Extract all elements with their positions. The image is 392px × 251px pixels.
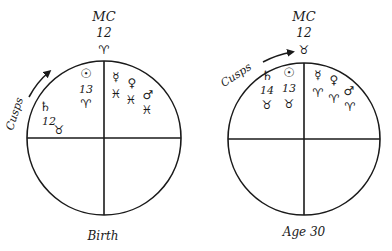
planet-venus: ♀ ♓	[126, 76, 137, 107]
aries-icon: ♈	[329, 92, 340, 106]
mc-degree: 12	[96, 26, 111, 40]
mc-degree: 12	[296, 26, 311, 40]
planet-mercury: ☿ ♈	[313, 68, 324, 100]
planet-mars: ♂ ♓	[142, 88, 154, 117]
planet-saturn: ♄ 12 ♉	[39, 99, 64, 137]
aries-icon: ♈	[81, 97, 92, 111]
pisces-icon: ♓	[111, 87, 122, 101]
cusps-arrow-icon	[263, 52, 292, 62]
aries-icon: ♈	[99, 43, 110, 57]
mars-icon: ♂	[143, 88, 154, 102]
sun-icon: ☉	[80, 66, 92, 81]
cusps-label: Cusps	[3, 95, 26, 132]
cusps-label: Cusps	[218, 60, 254, 90]
taurus-icon: ♉	[284, 97, 295, 111]
planet-saturn: ♄ 14 ♉	[260, 68, 274, 112]
chart-caption: Age 30	[282, 225, 326, 239]
venus-icon: ♀	[330, 73, 339, 87]
planet-sun: ☉ 13 ♈	[79, 66, 93, 111]
saturn-icon: ♄	[39, 99, 51, 114]
astrology-diagram: MC 12 ♈ Cusps ☉ 13 ♈ ♄ 12 ♉ ☿ ♓ ♀ ♓ ♂	[0, 0, 392, 251]
sun-degree: 13	[282, 82, 296, 95]
pisces-icon: ♓	[142, 103, 153, 117]
venus-icon: ♀	[128, 76, 137, 90]
taurus-icon: ♉	[54, 123, 65, 137]
chart-birth: MC 12 ♈ Cusps ☉ 13 ♈ ♄ 12 ♉ ☿ ♓ ♀ ♓ ♂	[3, 9, 181, 243]
pisces-icon: ♓	[126, 93, 137, 107]
sun-icon: ☉	[283, 65, 295, 80]
aries-icon: ♈	[313, 86, 324, 100]
taurus-icon: ♉	[299, 43, 310, 57]
planet-venus: ♀ ♈	[329, 73, 340, 106]
planet-mars: ♂ ♈	[344, 84, 356, 114]
planet-sun: ☉ 13 ♉	[282, 65, 296, 111]
chart-age30: MC 12 ♉ Cusps ♄ 14 ♉ ☉ 13 ♉ ☿ ♈ ♀ ♈ ♂	[218, 9, 380, 239]
mercury-icon: ☿	[112, 70, 119, 84]
sun-degree: 13	[79, 83, 93, 96]
mc-label: MC	[291, 9, 315, 24]
planet-mercury: ☿ ♓	[111, 70, 122, 101]
saturn-degree: 14	[260, 84, 274, 97]
cusps-arrow-icon	[29, 72, 49, 97]
mc-label: MC	[91, 9, 115, 24]
mercury-icon: ☿	[314, 68, 321, 82]
mars-icon: ♂	[344, 84, 355, 98]
saturn-icon: ♄	[261, 68, 273, 83]
chart-caption: Birth	[87, 229, 119, 243]
aries-icon: ♈	[345, 100, 356, 114]
taurus-icon: ♉	[262, 98, 273, 112]
